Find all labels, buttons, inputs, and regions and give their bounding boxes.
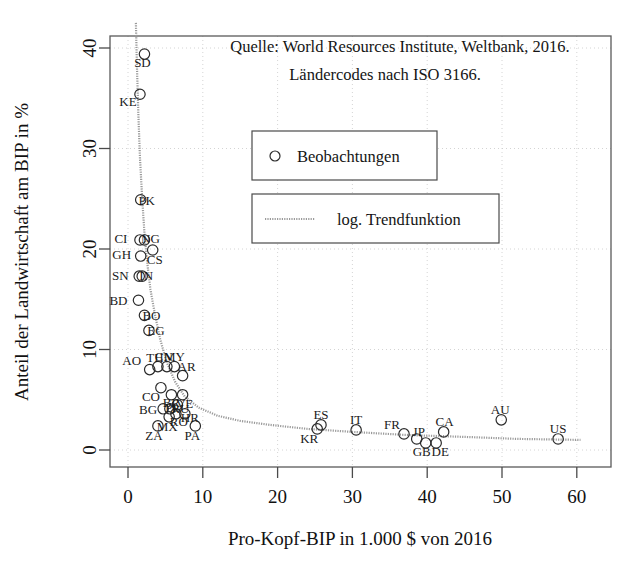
y-tick-label: 20 xyxy=(79,240,100,259)
legend-observations[interactable]: Beobachtungen xyxy=(252,131,437,180)
chart-page: 0102030405060010203040 SDKEPKCINGCSGHSNI… xyxy=(0,0,643,578)
scatter-chart: 0102030405060010203040 SDKEPKCINGCSGHSNI… xyxy=(0,0,643,578)
y-tick-label: 0 xyxy=(79,445,100,455)
data-point-label: CI xyxy=(114,231,127,246)
data-point-marker xyxy=(136,251,146,261)
data-point-label: GB xyxy=(413,444,431,459)
x-tick-label: 50 xyxy=(493,486,512,507)
data-point-label: AU xyxy=(491,402,510,417)
x-tick-label: 40 xyxy=(418,486,437,507)
data-point-label: IT xyxy=(350,412,362,427)
data-point-label: JP xyxy=(413,424,425,439)
data-point-label: PA xyxy=(185,428,201,443)
data-point-label: AR xyxy=(178,359,196,374)
x-tick-label: 0 xyxy=(123,486,133,507)
data-point-label: PK xyxy=(138,193,155,208)
data-markers xyxy=(133,49,563,448)
data-point-label: KE xyxy=(119,94,136,109)
y-axis-title: Anteil der Landwirtschaft am BIP in % xyxy=(11,103,32,401)
data-point-label: CA xyxy=(436,414,455,429)
data-point-label: NG xyxy=(141,231,160,246)
data-point-label: KR xyxy=(300,431,318,446)
data-point-label: BG xyxy=(139,402,157,417)
data-point-label: AO xyxy=(122,353,141,368)
data-point-label: BO xyxy=(142,308,160,323)
y-tick-label: 30 xyxy=(79,139,100,158)
x-axis-title: Pro-Kopf-BIP in 1.000 $ von 2016 xyxy=(228,528,492,549)
legend-trend-label: log. Trendfunktion xyxy=(337,210,461,229)
data-point-marker xyxy=(133,295,143,305)
x-tick-label: 30 xyxy=(343,486,362,507)
x-tick-label: 60 xyxy=(567,486,586,507)
source-note-line-2: Ländercodes nach ISO 3166. xyxy=(289,65,481,84)
data-point-label: GH xyxy=(112,247,131,262)
data-point-label: ES xyxy=(313,407,328,422)
data-point-label: DE xyxy=(432,444,449,459)
data-point-label: SN xyxy=(112,268,129,283)
data-point-label: PL xyxy=(165,400,180,415)
data-point-label: HR xyxy=(181,410,199,425)
data-point-label: FR xyxy=(384,417,400,432)
x-tick-label: 10 xyxy=(193,486,212,507)
data-point-label: BD xyxy=(109,293,127,308)
data-point-label: EG xyxy=(147,323,164,338)
y-tick-label: 10 xyxy=(79,340,100,359)
data-point-label: US xyxy=(550,421,567,436)
data-point-label: IN xyxy=(139,268,153,283)
data-point-label: SD xyxy=(134,55,151,70)
source-note-line-1: Quelle: World Resources Institute, Weltb… xyxy=(230,37,570,56)
data-point-labels: SDKEPKCINGCSGHSNINBDBOEGAOTHCNMYARCOBRVE… xyxy=(109,55,566,459)
data-point-label: CS xyxy=(147,252,163,267)
legend-trend[interactable]: log. Trendfunktion xyxy=(252,194,499,243)
data-point-label: ZA xyxy=(145,428,163,443)
x-tick-label: 20 xyxy=(268,486,287,507)
y-tick-label: 40 xyxy=(79,39,100,58)
legend-observations-label: Beobachtungen xyxy=(297,147,400,166)
